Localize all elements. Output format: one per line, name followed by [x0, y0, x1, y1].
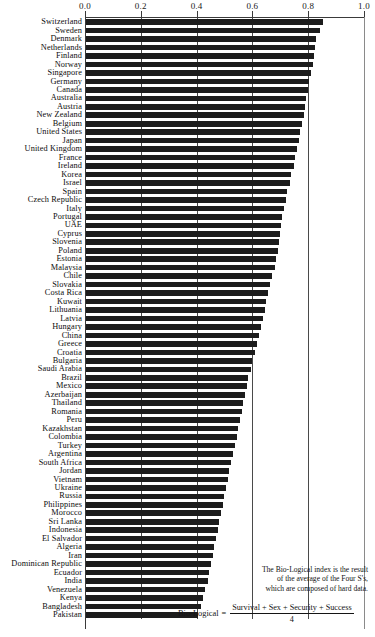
- bar: [86, 87, 308, 93]
- bar: [86, 400, 243, 406]
- bar: [86, 19, 323, 25]
- bar: [86, 553, 213, 559]
- bar: [86, 206, 284, 212]
- equation-label: Bio-Logical: [178, 609, 218, 618]
- bar: [86, 324, 261, 330]
- bar-row: Algeria: [0, 543, 375, 551]
- bar: [86, 536, 216, 542]
- bar: [86, 239, 279, 245]
- bar: [86, 62, 313, 68]
- bar: [86, 299, 266, 305]
- bar-row: Israel: [0, 179, 375, 187]
- bar: [86, 273, 272, 279]
- bar: [86, 146, 297, 152]
- bar-row: Romania: [0, 408, 375, 416]
- bar: [86, 468, 229, 474]
- x-tick-label-0: 0.0: [79, 1, 91, 11]
- bar-row: Malaysia: [0, 264, 375, 272]
- bar: [86, 477, 228, 483]
- x-tick-label-5: 1.0: [358, 1, 370, 11]
- bar: [86, 383, 247, 389]
- x-tick-label-4: 0.8: [302, 1, 314, 11]
- bar: [86, 70, 311, 76]
- annotation-line-2: of the average of the Four S's,: [228, 574, 368, 583]
- bar: [86, 544, 214, 550]
- bar-row: China: [0, 331, 375, 339]
- bar-row: Ireland: [0, 162, 375, 170]
- equation-numerator: Survival + Sex + Security + Success: [230, 603, 353, 613]
- bar: [86, 197, 286, 203]
- x-tick-mark-5: [364, 11, 365, 17]
- bar: [86, 485, 226, 491]
- bar: [86, 527, 218, 533]
- bar-row: Hungary: [0, 323, 375, 331]
- bar: [86, 409, 242, 415]
- bar: [86, 231, 280, 237]
- equation-denominator: 4: [290, 614, 294, 624]
- bar: [86, 561, 211, 567]
- x-tick-mark-0: [85, 11, 86, 17]
- bar: [86, 290, 268, 296]
- bar: [86, 341, 257, 347]
- bio-logical-equation: Bio-Logical = Survival + Sex + Security …: [178, 603, 354, 624]
- bar-row: Czech Republic: [0, 196, 375, 204]
- bar: [86, 333, 259, 339]
- bar-row: Korea: [0, 170, 375, 178]
- x-tick-mark-2: [197, 11, 198, 17]
- bar: [86, 104, 305, 110]
- bar: [86, 358, 252, 364]
- bar-row: Ukraine: [0, 484, 375, 492]
- bar: [86, 434, 237, 440]
- bar-row: Saudi Arabia: [0, 365, 375, 373]
- bar-row: United Kingdom: [0, 145, 375, 153]
- bar: [86, 129, 300, 135]
- bar: [86, 367, 251, 373]
- bar: [86, 595, 203, 601]
- bar: [86, 121, 302, 127]
- bar: [86, 265, 275, 271]
- bar: [86, 307, 265, 313]
- x-tick-mark-1: [141, 11, 142, 17]
- bar: [86, 426, 238, 432]
- bar: [86, 79, 309, 85]
- x-tick-mark-3: [252, 11, 253, 17]
- bar-row: France: [0, 154, 375, 162]
- bar: [86, 350, 255, 356]
- bar: [86, 460, 231, 466]
- bar: [86, 53, 314, 59]
- x-tick-mark-4: [308, 11, 309, 17]
- bar: [86, 417, 240, 423]
- bar-row: South Africa: [0, 458, 375, 466]
- bar: [86, 36, 316, 42]
- bar: [86, 96, 306, 102]
- bar: [86, 256, 276, 262]
- bar: [86, 519, 219, 525]
- bar: [86, 451, 233, 457]
- bar-rows: SwitzerlandSwedenDenmarkNetherlandsFinla…: [0, 18, 375, 619]
- bar: [86, 494, 224, 500]
- annotation-line-3: which are composed of hard data.: [228, 584, 368, 593]
- bar: [86, 112, 304, 118]
- annotation-note: The Bio-Logical index is the result of t…: [228, 565, 368, 593]
- bar: [86, 172, 291, 178]
- bar-row: UAE: [0, 221, 375, 229]
- bar: [86, 223, 281, 229]
- x-tick-label-1: 0.2: [135, 1, 147, 11]
- bar: [86, 138, 299, 144]
- x-tick-label-3: 0.6: [246, 1, 258, 11]
- category-label: Pakistan: [53, 611, 82, 619]
- bar: [86, 443, 235, 449]
- bar: [86, 155, 295, 161]
- bar: [86, 282, 270, 288]
- bar: [86, 587, 205, 593]
- bar: [86, 189, 287, 195]
- bar: [86, 578, 208, 584]
- bar: [86, 316, 263, 322]
- bar: [86, 570, 209, 576]
- bar-row: Portugal: [0, 213, 375, 221]
- bar: [86, 28, 320, 34]
- bar-row: United States: [0, 128, 375, 136]
- bar: [86, 375, 248, 381]
- bar: [86, 510, 221, 516]
- bar: [86, 392, 245, 398]
